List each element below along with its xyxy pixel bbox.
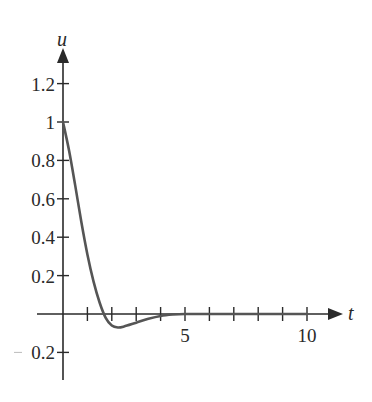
- y-tick-label: 0.2: [31, 266, 55, 287]
- x-tick-label: 5: [180, 325, 190, 346]
- x-tick-label: 10: [298, 325, 317, 346]
- y-tick-label: 1.2: [31, 74, 55, 95]
- y-tick-label: 0.4: [31, 227, 55, 248]
- y-ticks: 1.210.80.60.40.20.2: [14, 74, 69, 364]
- x-axis-label: t: [348, 302, 354, 324]
- y-tick-label: 1: [46, 112, 56, 133]
- data-series: [63, 122, 307, 327]
- y-tick-label: 0.8: [31, 150, 55, 171]
- y-axis-arrow-icon: [57, 48, 69, 63]
- y-axis-label: u: [57, 28, 67, 50]
- x-axis-arrow-icon: [328, 308, 343, 320]
- y-tick-label: 0.2: [31, 342, 55, 363]
- series-line: [63, 122, 307, 327]
- y-axis: [57, 48, 69, 380]
- line-chart: 510 1.210.80.60.40.20.2 t u: [0, 0, 372, 402]
- y-tick-label: 0.6: [31, 189, 55, 210]
